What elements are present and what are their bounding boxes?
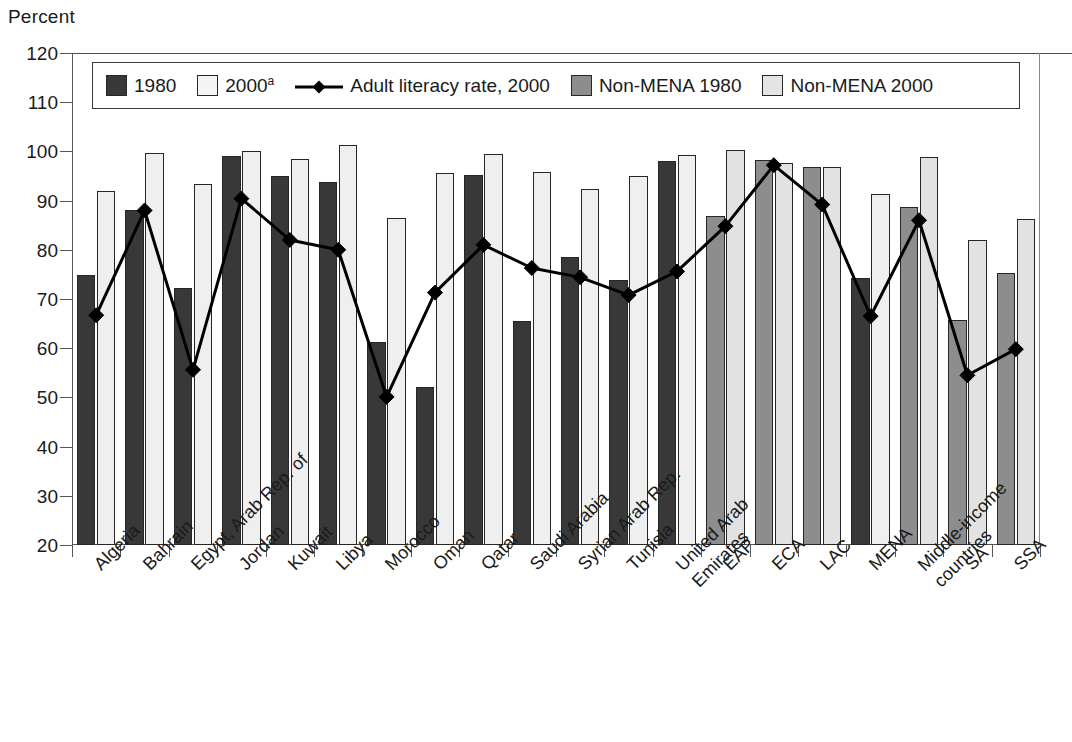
bar bbox=[803, 167, 822, 545]
y-tick-label-80: 80 bbox=[10, 241, 58, 260]
bar bbox=[823, 167, 842, 545]
bar bbox=[900, 207, 919, 545]
legend-footnote-marker: a bbox=[268, 74, 275, 88]
bar bbox=[484, 154, 503, 545]
y-tick-110 bbox=[60, 102, 72, 103]
right-axis-line bbox=[1039, 53, 1040, 545]
line-diamond-icon bbox=[295, 78, 343, 94]
y-tick-label-90: 90 bbox=[10, 192, 58, 211]
y-tick-label-60: 60 bbox=[10, 339, 58, 358]
bar bbox=[145, 153, 164, 545]
bar bbox=[775, 163, 794, 545]
y-tick-90 bbox=[60, 201, 72, 202]
y-tick-label-120: 120 bbox=[10, 44, 58, 63]
chart-figure: Percent Algeria: 66.7Bahrain: 88Egypt, A… bbox=[0, 0, 1072, 742]
y-tick-label-20: 20 bbox=[10, 536, 58, 555]
legend-item-label: Adult literacy rate, 2000 bbox=[350, 75, 550, 97]
y-tick-label-40: 40 bbox=[10, 438, 58, 457]
legend-item[interactable]: Adult literacy rate, 2000 bbox=[295, 75, 550, 97]
y-tick-60 bbox=[60, 348, 72, 349]
bar bbox=[222, 156, 241, 545]
bar bbox=[609, 280, 628, 545]
legend-item-label: 2000a bbox=[225, 74, 274, 97]
bar bbox=[436, 173, 455, 545]
legend-item-label: 1980 bbox=[134, 75, 176, 97]
bar bbox=[726, 150, 745, 545]
bar bbox=[464, 175, 483, 545]
square-lightgray-icon bbox=[762, 75, 783, 96]
square-light-icon bbox=[197, 75, 218, 96]
legend-item[interactable]: 2000a bbox=[197, 74, 274, 97]
bar bbox=[1017, 219, 1036, 545]
y-tick-100 bbox=[60, 151, 72, 152]
bar bbox=[513, 321, 532, 545]
bar bbox=[97, 191, 116, 545]
bar bbox=[755, 160, 774, 545]
legend-item[interactable]: Non-MENA 2000 bbox=[762, 75, 933, 97]
x-tick-19 bbox=[992, 545, 993, 557]
y-tick-label-110: 110 bbox=[10, 93, 58, 112]
y-tick-label-70: 70 bbox=[10, 290, 58, 309]
bar bbox=[319, 182, 338, 545]
y-tick-label-50: 50 bbox=[10, 388, 58, 407]
bar bbox=[871, 194, 890, 545]
legend-item[interactable]: 1980 bbox=[106, 75, 176, 97]
square-dark-icon bbox=[106, 75, 127, 96]
chart-legend: 19802000aAdult literacy rate, 2000Non-ME… bbox=[92, 62, 1020, 109]
bar bbox=[77, 275, 96, 545]
bar bbox=[291, 159, 310, 545]
y-tick-40 bbox=[60, 447, 72, 448]
y-tick-label-100: 100 bbox=[10, 142, 58, 161]
bar bbox=[706, 216, 725, 545]
y-tick-120 bbox=[60, 53, 72, 54]
legend-item-label: Non-MENA 1980 bbox=[599, 75, 742, 97]
bar bbox=[561, 257, 580, 545]
y-tick-30 bbox=[60, 496, 72, 497]
y-axis-title: Percent bbox=[8, 6, 75, 28]
x-axis-labels: AlgeriaBahrainEgypt, Arab Rep. ofJordanK… bbox=[72, 558, 1072, 738]
y-tick-50 bbox=[60, 397, 72, 398]
square-gray-icon bbox=[571, 75, 592, 96]
y-tick-80 bbox=[60, 250, 72, 251]
bar bbox=[920, 157, 939, 545]
bar bbox=[387, 218, 406, 545]
literacy-line-series: Algeria: 66.7Bahrain: 88Egypt, Arab Rep.… bbox=[72, 53, 1040, 545]
bar bbox=[678, 155, 697, 545]
bar bbox=[339, 145, 358, 545]
bar bbox=[367, 342, 386, 545]
bar bbox=[851, 278, 870, 545]
y-tick-20 bbox=[60, 545, 72, 546]
plot-area: Algeria: 66.7Bahrain: 88Egypt, Arab Rep.… bbox=[72, 53, 1040, 545]
bar bbox=[125, 210, 144, 545]
y-axis-line bbox=[72, 53, 73, 545]
bar bbox=[533, 172, 552, 545]
y-tick-70 bbox=[60, 299, 72, 300]
bar bbox=[174, 288, 193, 545]
legend-item-label: Non-MENA 2000 bbox=[790, 75, 933, 97]
x-tick-0 bbox=[72, 545, 73, 557]
bar bbox=[242, 151, 261, 545]
bar bbox=[194, 184, 213, 545]
legend-item[interactable]: Non-MENA 1980 bbox=[571, 75, 742, 97]
y-tick-label-30: 30 bbox=[10, 487, 58, 506]
